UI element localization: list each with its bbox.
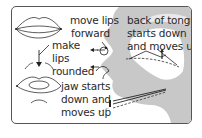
label-forward: forward <box>71 27 110 39</box>
label-down-and: down and <box>61 93 111 105</box>
diagram-card: move lips forward make lips rounded back… <box>11 6 192 124</box>
label-lips: lips <box>52 52 69 64</box>
label-move-lips: move lips <box>70 14 119 26</box>
label-make: make <box>52 39 80 51</box>
label-and-moves-up: and moves up <box>127 40 192 52</box>
label-starts-down: starts down <box>127 27 186 39</box>
label-rounded: rounded <box>52 65 94 77</box>
label-jaw-starts: jaw starts <box>61 80 110 92</box>
label-moves-up: moves up <box>61 106 111 118</box>
label-back-of-tongue: back of tongue <box>127 14 192 26</box>
